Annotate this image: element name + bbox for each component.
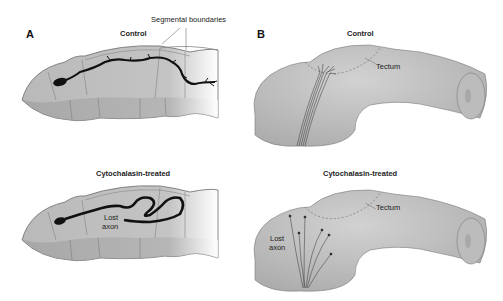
panel-b-control-title: Control [347, 29, 374, 38]
brain-control-b [254, 45, 487, 146]
panel-a-treated-title: Cytochalasin-treated [96, 169, 170, 178]
figure: A Control Segmental boundaries Cytochala… [0, 0, 503, 301]
embryo-control-a [22, 28, 218, 121]
tectum-label-treated: Tectum [376, 203, 400, 212]
figure-illustration [0, 0, 503, 301]
panel-a-control-title: Control [120, 29, 147, 38]
tectum-label-control: Tectum [376, 62, 400, 71]
panel-b-treated-title: Cytochalasin-treated [323, 169, 397, 178]
panel-a-lost-label: Lost [104, 213, 118, 222]
panel-a-axon-label: axon [102, 222, 118, 231]
panel-a-letter: A [26, 28, 34, 40]
embryo-treated-a [22, 186, 218, 261]
segmental-boundaries-label: Segmental boundaries [151, 15, 226, 24]
brain-treated-b [254, 190, 487, 291]
panel-b-axon-label: axon [269, 243, 285, 252]
panel-b-lost-label: Lost [270, 234, 284, 243]
panel-b-letter: B [257, 28, 265, 40]
